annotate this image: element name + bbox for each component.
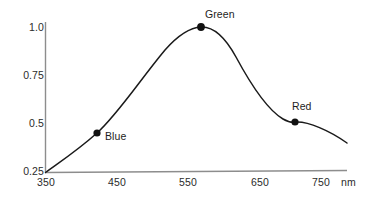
data-point-blue[interactable] <box>93 129 100 136</box>
x-axis-line <box>45 171 347 173</box>
x-tick-650: 650 <box>240 176 280 188</box>
x-tick-450: 450 <box>97 176 137 188</box>
x-tick-350: 350 <box>26 176 66 188</box>
y-tick-1: 1.0 <box>6 21 44 33</box>
y-tick-0.5: 0.5 <box>6 117 44 129</box>
cone-response-chart: 1.0 0.75 0.5 0.25 350 450 550 650 750 nm… <box>0 0 376 202</box>
x-axis-unit-label: nm <box>341 176 356 188</box>
annotation-red: Red <box>292 100 312 112</box>
data-point-green[interactable] <box>197 23 205 31</box>
data-point-red[interactable] <box>291 118 298 125</box>
annotation-blue: Blue <box>105 130 126 142</box>
x-tick-750: 750 <box>301 176 341 188</box>
plot-area <box>0 0 376 202</box>
annotation-green: Green <box>205 8 235 20</box>
x-tick-550: 550 <box>168 176 208 188</box>
y-tick-0.75: 0.75 <box>6 69 44 81</box>
